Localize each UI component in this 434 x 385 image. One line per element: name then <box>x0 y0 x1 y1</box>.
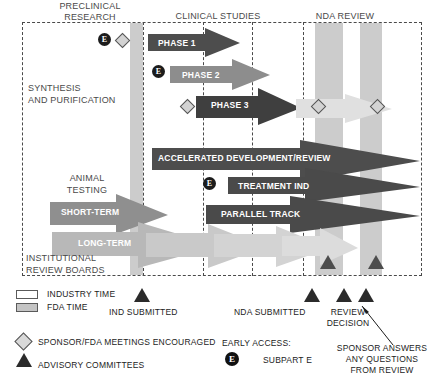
legend-label-advisory-committees: ADVISORY COMMITTEES <box>38 360 144 371</box>
divider-preclinical-clinical <box>143 22 144 276</box>
legend-label-fda-time: FDA TIME <box>47 302 88 313</box>
header-clinical-studies: CLINICAL STUDIES <box>163 11 273 22</box>
review-decision-triangle-1 <box>336 288 352 302</box>
legend-label-ind-submitted: IND SUBMITTED <box>109 307 178 318</box>
legend-label-review-decision: REVIEW DECISION <box>318 307 378 329</box>
arrow-label-phase-1: PHASE 1 <box>158 38 196 48</box>
header-preclinical-research: PRECLINICAL RESEARCH <box>40 1 140 23</box>
arrow-label-phase-2: PHASE 2 <box>182 70 220 80</box>
legend-label-subpart-e: SUBPART E <box>263 355 312 366</box>
legend-label-early-access: EARLY ACCESS: <box>222 338 291 349</box>
early-access-marker-2: E <box>152 65 165 78</box>
review-decision-triangle-2 <box>358 288 374 302</box>
legend-swatch-industry-time <box>16 290 38 299</box>
early-access-marker-1: E <box>98 33 111 46</box>
arrow-label-phase-3: PHASE 3 <box>211 100 249 110</box>
nda-submitted-triangle <box>304 288 320 302</box>
header-nda-review: NDA REVIEW <box>300 11 390 22</box>
arrow-label-short-term: SHORT-TERM <box>61 207 119 217</box>
side-label-institutional-review-boards: INSTITUTIONAL REVIEW BOARDS <box>26 252 105 276</box>
advisory-committee-triangle-2 <box>368 255 384 269</box>
drug-development-diagram: PRECLINICAL RESEARCH CLINICAL STUDIES ND… <box>0 0 434 385</box>
advisory-committee-triangle-1 <box>320 255 336 269</box>
divider-clinical-nda <box>303 22 304 276</box>
legend-diamond-sponsor-meetings <box>14 332 32 350</box>
arrow-label-parallel-track: PARALLEL TRACK <box>221 209 300 219</box>
legend-label-sponsor-answers: SPONSOR ANSWERS ANY QUESTIONS FROM REVIE… <box>333 343 431 376</box>
arrow-label-treatment-ind: TREATMENT IND <box>238 181 309 191</box>
side-label-synthesis-and-purification: SYNTHESIS AND PURIFICATION <box>28 82 116 106</box>
legend-swatch-fda-time <box>16 303 38 312</box>
legend-triangle-advisory-committees <box>16 353 32 367</box>
side-label-animal-testing: ANIMAL TESTING <box>52 172 122 196</box>
early-access-marker-3: E <box>203 177 216 190</box>
arrow-label-long-term: LONG-TERM <box>78 238 131 248</box>
divider-phase1-phase2 <box>203 22 204 276</box>
legend-label-industry-time: INDUSTRY TIME <box>47 289 115 300</box>
divider-phase2-phase3 <box>252 22 253 276</box>
legend-circle-e-icon: E <box>225 352 239 366</box>
ind-submitted-triangle <box>134 288 150 302</box>
legend-label-nda-submitted: NDA SUBMITTED <box>234 307 306 318</box>
arrow-label-accelerated-development-review: ACCELERATED DEVELOPMENT/REVIEW <box>158 153 331 163</box>
legend-label-sponsor-meetings: SPONSOR/FDA MEETINGS ENCOURAGED <box>38 337 216 348</box>
